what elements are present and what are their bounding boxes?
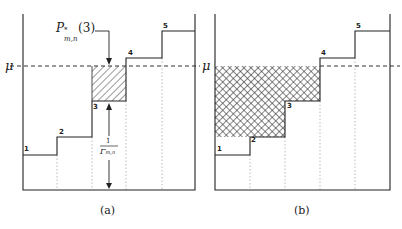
arrow-down-icon bbox=[106, 183, 112, 189]
panel-b bbox=[215, 14, 400, 190]
step-label: 2 bbox=[251, 136, 256, 144]
arrow-up-icon bbox=[106, 103, 112, 110]
caption-b: (b) bbox=[294, 204, 310, 217]
caption-a: (a) bbox=[100, 204, 115, 217]
mu-label-b: μ bbox=[202, 58, 210, 73]
step-label: 4 bbox=[321, 49, 326, 57]
annotation-leader bbox=[95, 31, 109, 62]
step-label: 3 bbox=[287, 102, 292, 110]
mu-label-a: μ bbox=[5, 58, 13, 73]
step-label: 1 bbox=[24, 145, 29, 153]
fraction-denominator: Γm,n bbox=[100, 147, 115, 156]
step-label: 5 bbox=[163, 22, 168, 30]
step-label: 4 bbox=[128, 49, 133, 57]
fraction-numerator: 1 bbox=[106, 137, 110, 145]
arrow-down-icon bbox=[106, 58, 112, 65]
step-label: 1 bbox=[217, 145, 222, 153]
hatched-power-region bbox=[92, 66, 126, 101]
step-label: 3 bbox=[93, 103, 98, 111]
step-label: 2 bbox=[59, 128, 64, 136]
power-annotation: P*m,n(3) bbox=[56, 21, 95, 35]
step-label: 5 bbox=[356, 22, 361, 30]
panel-a bbox=[10, 14, 200, 190]
